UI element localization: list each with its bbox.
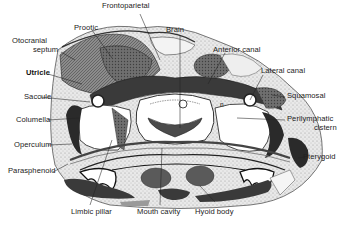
label-pterygoid: Pterygoid	[303, 153, 336, 162]
label-frontoparietal: Frontoparietal	[102, 2, 150, 11]
braincase	[136, 94, 214, 144]
label-n-marker: n	[220, 101, 224, 110]
label-prootic: Prootic	[74, 24, 98, 33]
label-mouth-cavity: Mouth cavity	[137, 208, 180, 217]
label-operculum: Operculum	[14, 141, 52, 150]
label-saccule: Saccule	[24, 93, 51, 102]
label-lateral-canal: Lateral canal	[261, 67, 305, 76]
label-parasphenoid: Parasphenoid	[8, 167, 55, 176]
anatomy-figure: Frontoparietal Prootic Brain Otocranial …	[0, 0, 347, 229]
label-anterior-canal: Anterior canal	[213, 46, 261, 55]
label-brain: Brain	[166, 26, 184, 35]
label-utricle: Utricle	[26, 69, 50, 78]
label-otocranial-septum-line2: septum	[33, 46, 58, 55]
label-perilymphatic-cistern-line2: cistern	[314, 124, 337, 133]
label-columella: Columella	[16, 116, 50, 125]
label-hyoid-body: Hyoid body	[195, 208, 234, 217]
label-squamosal: Squamosal	[287, 92, 325, 101]
label-limbic-pillar: Limbic pillar	[71, 208, 112, 217]
